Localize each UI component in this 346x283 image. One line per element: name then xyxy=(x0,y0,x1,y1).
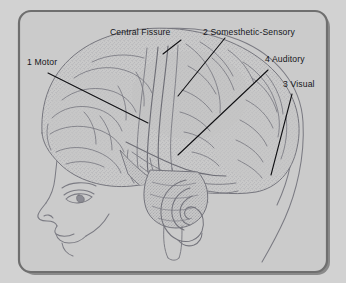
label-auditory: 4 Auditory xyxy=(265,55,305,64)
label-somesthetic-sensory: 2 Somesthetic-Sensory xyxy=(203,28,295,37)
label-motor: 1 Motor xyxy=(27,58,57,67)
figure-stage: 1 Motor Central Fissure 2 Somesthetic-Se… xyxy=(0,0,346,283)
brain-diagram-illustration xyxy=(0,0,346,283)
label-central-fissure: Central Fissure xyxy=(110,28,171,37)
label-visual: 3 Visual xyxy=(283,80,315,89)
